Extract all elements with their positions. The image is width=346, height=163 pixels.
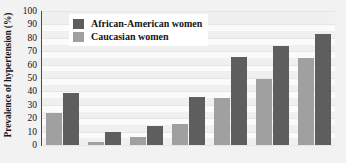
bar-caucasian (130, 137, 146, 145)
y-tick-label-50: 50 (14, 73, 37, 83)
bar-caucasian (298, 58, 314, 145)
bar-caucasian (214, 98, 230, 145)
legend-item-african-american: African-American women (73, 17, 202, 30)
y-tick-label-40: 40 (14, 86, 37, 96)
gridline-0 (42, 145, 335, 146)
bar-chart-figure: Prevalence of hypertension (%) 100908070… (0, 0, 346, 163)
y-tick-label-30: 30 (14, 100, 37, 110)
legend-label-caucasian: Caucasian women (91, 31, 169, 42)
bar-group (293, 11, 335, 145)
y-axis-tick-labels: 1009080706050403020100 (14, 11, 37, 145)
bar-african-american (231, 57, 247, 145)
bar-caucasian (256, 79, 272, 145)
bar-caucasian (88, 142, 104, 145)
bar-group (209, 11, 251, 145)
legend-item-caucasian: Caucasian women (73, 30, 202, 43)
y-tick-label-100: 100 (14, 6, 37, 16)
bar-african-american (273, 46, 289, 145)
bar-african-american (189, 97, 205, 145)
y-tick-label-0: 0 (14, 140, 37, 150)
bar-caucasian (172, 124, 188, 145)
legend-label-african-american: African-American women (91, 18, 202, 29)
y-tick-label-10: 10 (14, 127, 37, 137)
legend-swatch-icon-african-american (73, 19, 84, 29)
bar-caucasian (46, 113, 62, 145)
bar-african-american (315, 34, 331, 145)
y-tick-label-80: 80 (14, 33, 37, 43)
y-tick-label-70: 70 (14, 46, 37, 56)
bar-african-american (147, 126, 163, 145)
y-tick-label-20: 20 (14, 113, 37, 123)
bar-african-american (63, 93, 79, 145)
y-tick-label-60: 60 (14, 60, 37, 70)
legend-swatch-icon-caucasian (73, 32, 84, 42)
y-tick-label-90: 90 (14, 19, 37, 29)
y-axis-title: Prevalence of hypertension (%) (3, 5, 13, 145)
bar-african-american (105, 132, 121, 145)
bar-group (251, 11, 293, 145)
legend: African-American women Caucasian women (69, 14, 208, 46)
